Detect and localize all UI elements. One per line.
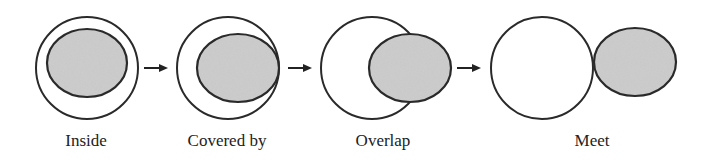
stage-meet: Meet bbox=[491, 17, 676, 150]
topological-relations-diagram: Inside Covered by Overlap Meet bbox=[0, 0, 714, 163]
stage-overlap: Overlap bbox=[321, 17, 451, 150]
container-circle bbox=[491, 17, 593, 119]
stage-label-covered-by: Covered by bbox=[188, 131, 267, 150]
stage-label-inside: Inside bbox=[65, 131, 107, 150]
right-arrow-icon bbox=[144, 64, 168, 72]
shaded-region bbox=[197, 34, 279, 102]
shaded-region bbox=[594, 28, 676, 96]
shaded-region bbox=[369, 34, 451, 102]
right-arrow-icon bbox=[288, 64, 312, 72]
right-arrow-icon bbox=[457, 64, 481, 72]
stage-inside: Inside bbox=[36, 17, 138, 150]
shaded-region bbox=[47, 29, 127, 97]
stage-label-meet: Meet bbox=[575, 131, 610, 150]
stage-covered-by: Covered by bbox=[177, 17, 279, 150]
stage-label-overlap: Overlap bbox=[356, 131, 411, 150]
